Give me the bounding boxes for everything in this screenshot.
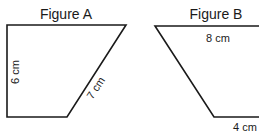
figure-b: Figure B 8 cm 4 cm	[155, 6, 259, 133]
figure-b-bottom-label: 4 cm	[233, 121, 257, 133]
figure-a-title: Figure A	[40, 6, 93, 22]
figure-b-top-label: 8 cm	[206, 32, 230, 44]
figure-a-shape	[7, 25, 126, 117]
figure-b-title: Figure B	[190, 6, 243, 22]
figure-a: Figure A 6 cm 7 cm	[7, 6, 126, 117]
figure-a-left-label: 6 cm	[9, 60, 21, 84]
figure-a-slant-label: 7 cm	[84, 75, 107, 102]
diagram-canvas: Figure A 6 cm 7 cm Figure B 8 cm 4 cm	[0, 0, 259, 133]
